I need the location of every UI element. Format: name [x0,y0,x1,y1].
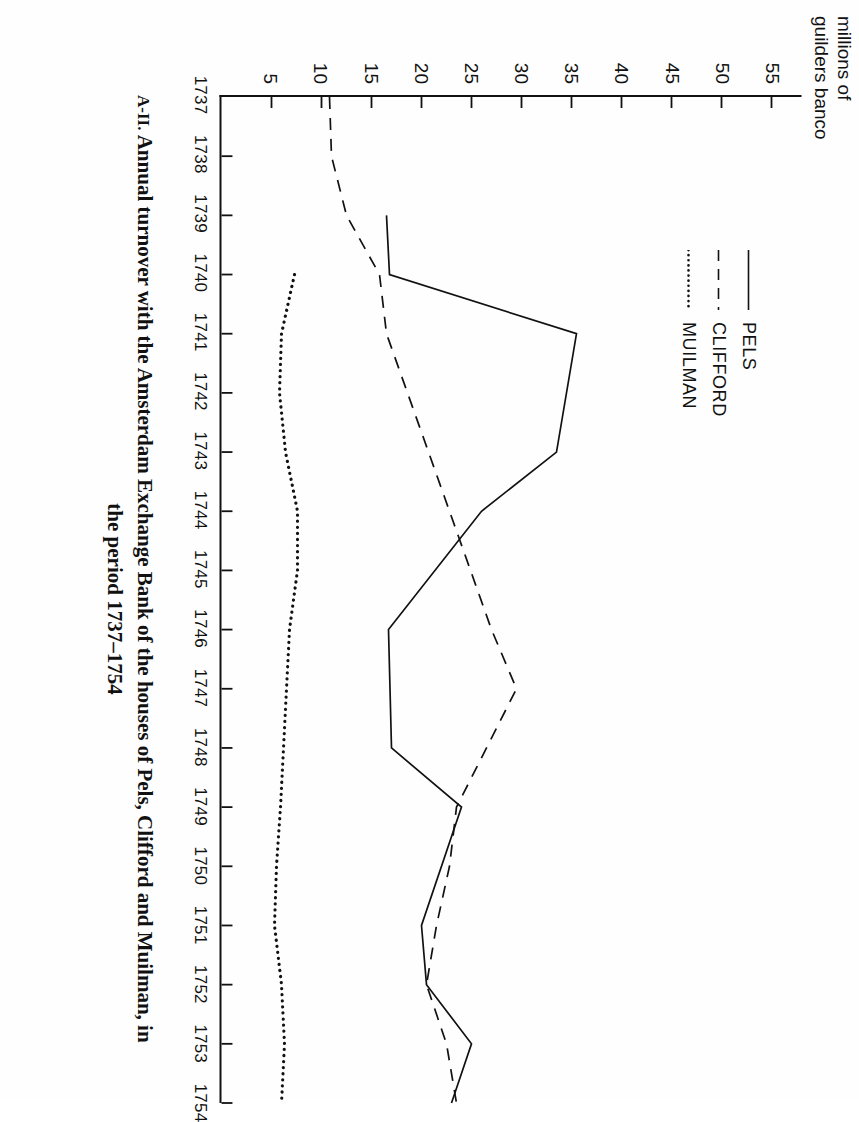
plot-frame [219,95,801,1103]
x-tick-label: 1745 [189,550,209,589]
figure-caption: A-II. Annual turnover with the Amsterdam… [98,95,159,1103]
x-tick-label: 1739 [189,194,209,233]
x-tick-label: 1748 [189,728,209,767]
series-pels [386,215,576,1103]
series-clifford [329,97,516,1103]
y-tick-label: 50 [710,40,732,84]
x-tick-label: 1738 [189,135,209,174]
x-tick-label: 1747 [189,669,209,708]
x-tick-label: 1744 [189,491,209,530]
x-tick-label: 1737 [189,76,209,115]
y-tick-label: 30 [509,40,531,84]
caption-text: Annual turnover with the Amsterdam Excha… [132,135,156,1043]
x-tick-label: 1753 [189,1024,209,1063]
x-tick-label: 1752 [189,965,209,1004]
y-tick-label: 45 [660,40,682,84]
y-tick-label: 5 [258,40,280,84]
x-tick-label: 1740 [189,254,209,293]
caption-text-2: the period 1737–1754 [98,95,128,1103]
x-tick-label: 1741 [189,313,209,352]
y-tick-label: 55 [760,40,782,84]
y-tick-label: 15 [359,40,381,84]
series-muilman [274,275,297,1103]
x-tick-label: 1746 [189,609,209,648]
plot-lines [221,97,801,1103]
y-tick-label: 40 [609,40,631,84]
y-axis-title: millions of guilders banco [809,16,855,140]
y-tick-label: 10 [308,40,330,84]
x-tick-label: 1749 [189,787,209,826]
x-tick-label: 1754 [189,1084,209,1122]
caption-number: A-II. [133,95,152,135]
x-tick-label: 1751 [189,906,209,945]
x-tick-label: 1750 [189,847,209,886]
chart-area: millions of guilders banco PELS CLIFFORD [159,0,859,1098]
x-tick-label: 1743 [189,431,209,470]
y-tick-label: 35 [559,40,581,84]
y-tick-label: 20 [409,40,431,84]
x-tick-label: 1742 [189,372,209,411]
y-tick-label: 25 [459,40,481,84]
